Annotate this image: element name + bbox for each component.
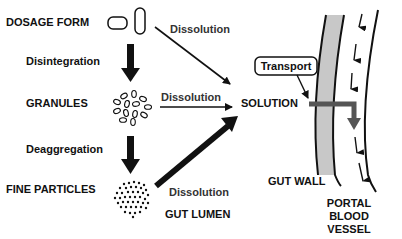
stage-granules: GRANULES: [26, 97, 88, 109]
process-dissolution-fine: Dissolution: [169, 186, 229, 198]
absorption-diagram: DOSAGE FORM GRANULES FINE PARTICLES SOLU…: [0, 0, 402, 239]
process-dissolution-granules: Dissolution: [161, 91, 221, 103]
stage-solution: SOLUTION: [241, 97, 298, 109]
arrow-dissolution-dosage: [155, 27, 230, 84]
granules-icon: [113, 91, 152, 126]
fine-particles-icon: [114, 181, 149, 218]
blood-flow-arrows: [351, 14, 363, 181]
region-gut-wall: GUT WALL: [268, 175, 326, 187]
region-gut-lumen: GUT LUMEN: [165, 208, 230, 220]
arrow-disintegration: [121, 44, 140, 82]
process-deaggregation: Deaggregation: [26, 143, 103, 155]
stage-dosage-form: DOSAGE FORM: [6, 16, 89, 28]
tablet-icon: [108, 17, 127, 29]
transport-callout: Transport: [255, 57, 317, 98]
region-portal-line3: VESSEL: [327, 223, 371, 235]
capsule-icon: [135, 8, 145, 34]
process-transport: Transport: [261, 60, 312, 72]
process-dissolution-dosage: Dissolution: [170, 23, 230, 35]
arrow-deaggregation: [121, 136, 140, 174]
region-portal-line2: BLOOD: [329, 210, 369, 222]
stage-fine-particles: FINE PARTICLES: [6, 183, 96, 195]
process-disintegration: Disintegration: [26, 55, 100, 67]
arrow-dissolution-fine: [156, 116, 238, 186]
region-portal-line1: PORTAL: [327, 197, 372, 209]
portal-vessel-edge: [365, 10, 378, 192]
